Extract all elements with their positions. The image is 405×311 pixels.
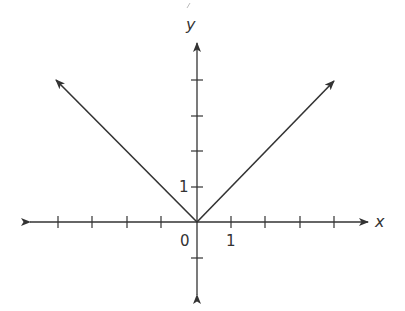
origin-label: 0 [180, 232, 190, 250]
abs-value-graph: y x 0 1 1 [0, 0, 405, 311]
graph-left-branch [56, 80, 197, 222]
graph-right-branch [197, 81, 334, 222]
y-axis-label: y [185, 15, 196, 34]
x-axis-label: x [374, 212, 385, 231]
y-one-label: 1 [179, 178, 189, 196]
x-one-label: 1 [226, 232, 236, 250]
scan-mark [187, 3, 190, 8]
